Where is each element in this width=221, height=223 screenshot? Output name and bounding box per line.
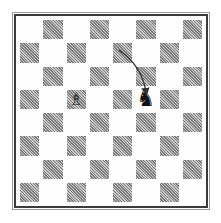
square-f6 [136, 67, 155, 86]
square-d6 [90, 67, 109, 86]
square-b4 [43, 113, 62, 132]
square-e3 [113, 136, 132, 155]
square-h1 [181, 181, 204, 204]
square-c3 [67, 136, 86, 155]
square-b2 [43, 160, 62, 179]
square-a4 [18, 111, 41, 134]
square-g7 [160, 43, 179, 62]
square-c5: ♗ [67, 90, 86, 109]
square-f7 [134, 41, 157, 64]
square-g8 [158, 18, 181, 41]
square-h2 [183, 160, 202, 179]
square-d8 [90, 20, 109, 39]
square-f4 [136, 113, 155, 132]
square-a1 [20, 183, 39, 202]
square-e8 [111, 18, 134, 41]
square-c6 [65, 65, 88, 88]
square-b5 [41, 88, 64, 111]
square-d3 [88, 134, 111, 157]
square-c8 [65, 18, 88, 41]
square-c1 [67, 183, 86, 202]
square-h5 [181, 88, 204, 111]
square-c4 [65, 111, 88, 134]
square-e2 [111, 158, 134, 181]
square-g5 [160, 90, 179, 109]
square-d2 [90, 160, 109, 179]
square-f8 [136, 20, 155, 39]
square-a5 [20, 90, 39, 109]
square-g3 [160, 136, 179, 155]
square-h4 [183, 113, 202, 132]
square-b8 [43, 20, 62, 39]
square-a6 [18, 65, 41, 88]
square-g1 [160, 183, 179, 202]
square-a7 [20, 43, 39, 62]
square-c7 [67, 43, 86, 62]
square-h7 [181, 41, 204, 64]
square-d1 [88, 181, 111, 204]
square-h8 [183, 20, 202, 39]
square-e6 [111, 65, 134, 88]
square-f5: ♞ [134, 88, 157, 111]
square-a8 [18, 18, 41, 41]
square-e5 [113, 90, 132, 109]
chess-board: ♗♞ [14, 14, 208, 208]
square-g6 [158, 65, 181, 88]
square-g2 [158, 158, 181, 181]
square-d4 [90, 113, 109, 132]
square-a2 [18, 158, 41, 181]
square-h6 [183, 67, 202, 86]
square-b3 [41, 134, 64, 157]
square-h3 [181, 134, 204, 157]
square-b7 [41, 41, 64, 64]
square-f2 [136, 160, 155, 179]
square-e1 [113, 183, 132, 202]
board-grid: ♗♞ [18, 18, 204, 204]
square-g4 [158, 111, 181, 134]
square-b1 [41, 181, 64, 204]
black-knight-icon: ♞ [134, 88, 157, 111]
square-d7 [88, 41, 111, 64]
square-f1 [134, 181, 157, 204]
square-c2 [65, 158, 88, 181]
square-f3 [134, 134, 157, 157]
square-d5 [88, 88, 111, 111]
square-a3 [20, 136, 39, 155]
square-e7 [113, 43, 132, 62]
white-bishop-icon: ♗ [65, 88, 88, 111]
square-b6 [43, 67, 62, 86]
square-e4 [111, 111, 134, 134]
